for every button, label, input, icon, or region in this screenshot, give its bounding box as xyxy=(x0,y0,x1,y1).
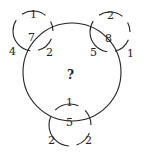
unknown-value: ? xyxy=(67,68,74,82)
bottom-center-number: 5 xyxy=(66,116,73,129)
top-left-center-number: 7 xyxy=(28,31,35,44)
top-right-right-number: 1 xyxy=(127,47,134,60)
circle-number-puzzle: 1 7 4 2 2 8 5 1 ? 1 5 2 2 xyxy=(0,0,144,157)
bottom-left-number: 2 xyxy=(48,134,55,147)
top-left-left-number: 4 xyxy=(9,45,16,58)
top-left-right-number: 2 xyxy=(46,46,53,59)
top-right-circle: 2 8 5 1 xyxy=(90,9,134,60)
bottom-right-number: 2 xyxy=(85,134,92,147)
top-right-center-number: 8 xyxy=(105,32,112,45)
top-right-top-number: 2 xyxy=(107,9,114,22)
top-left-circle: 1 7 4 2 xyxy=(9,8,53,59)
top-right-left-number: 5 xyxy=(90,46,97,59)
bottom-top-number: 1 xyxy=(66,96,73,109)
top-left-top-number: 1 xyxy=(30,8,37,21)
bottom-circle: 1 5 2 2 xyxy=(48,96,92,147)
